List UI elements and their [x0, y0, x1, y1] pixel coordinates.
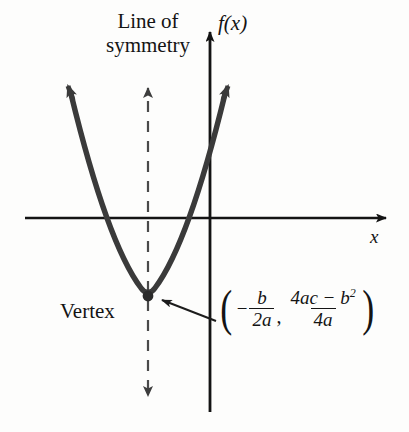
vertex-formula-leader-line: [162, 300, 216, 321]
y-axis-label: f(x): [218, 12, 247, 36]
line-of-symmetry-label-line2: symmetry: [88, 34, 208, 58]
formula-separator: ,: [275, 306, 286, 329]
vertex-coordinates-formula: ( − b 2a , 4ac − b2 4a ): [218, 288, 376, 329]
formula-open-paren: (: [220, 288, 232, 329]
formula-y-numerator-text: 4ac − b: [290, 287, 349, 308]
line-of-symmetry-label-line1: Line of: [88, 10, 208, 34]
vertex-point: [143, 291, 154, 302]
formula-minus-sign: −: [235, 299, 249, 318]
formula-close-paren: ): [362, 288, 374, 329]
formula-y-coordinate-fraction: 4ac − b2 4a: [287, 288, 358, 329]
formula-y-numerator: 4ac − b2: [287, 288, 358, 308]
parabola-left-arrow: [68, 86, 73, 100]
parabola-vertex-diagram: Line of symmetry f(x) x Vertex ( − b 2a …: [0, 0, 409, 432]
diagram-canvas: [0, 0, 409, 432]
parabola-right-arrow: [223, 86, 228, 100]
formula-x-coordinate-fraction: b 2a: [249, 288, 274, 329]
x-axis-label: x: [370, 226, 378, 247]
line-of-symmetry-label: Line of symmetry: [88, 10, 208, 57]
formula-y-denominator: 4a: [311, 308, 336, 329]
formula-x-denominator: 2a: [249, 308, 274, 329]
vertex-label: Vertex: [60, 300, 115, 324]
formula-y-numerator-exponent: 2: [350, 286, 356, 300]
y-axis-label-text: f(x): [218, 11, 247, 35]
formula-x-numerator: b: [254, 288, 270, 308]
